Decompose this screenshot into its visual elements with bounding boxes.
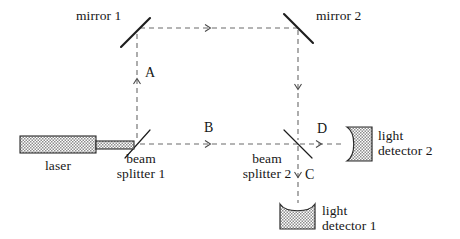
diagram-canvas <box>0 0 460 239</box>
beam-path-d <box>300 141 345 148</box>
beam-splitter-1-label-line1: beam <box>93 151 189 166</box>
light-detector-2-label: light detector 2 <box>378 128 433 158</box>
light-detector-2-label-line1: light <box>378 128 433 143</box>
laser-label: laser <box>23 159 93 173</box>
beam-label-a: A <box>145 66 155 80</box>
beam-path-b <box>140 141 298 148</box>
light-detector-1-label: light detector 1 <box>322 203 377 233</box>
mirror-1-surface <box>121 18 150 47</box>
light-detector-1-label-line1: light <box>322 203 377 218</box>
light-detector-1-body <box>280 204 315 229</box>
light-detector-1-label-line2: detector 1 <box>322 218 377 233</box>
beam-label-c: C <box>305 168 314 182</box>
beam-path-a <box>134 34 141 138</box>
mirror-2-label: mirror 2 <box>316 9 361 23</box>
beam-path-right <box>295 30 302 140</box>
beam-label-d: D <box>317 122 327 136</box>
beam-path-top <box>140 25 300 32</box>
beam-label-b: B <box>204 121 213 135</box>
beam-splitter-2-label: beam splitter 2 <box>219 151 315 181</box>
beam-splitter-2-label-line1: beam <box>219 151 315 166</box>
mirror-1-label: mirror 1 <box>76 9 121 23</box>
beam-splitter-1-label-line2: splitter 1 <box>93 166 189 181</box>
beam-splitter-1-label: beam splitter 1 <box>93 151 189 181</box>
light-detector-2-body <box>347 127 372 161</box>
light-detector-2-label-line2: detector 2 <box>378 143 433 158</box>
beam-splitter-2-label-line2: splitter 2 <box>219 166 315 181</box>
interferometer-figure: mirror 1 mirror 2 beam splitter 1 beam s… <box>0 0 460 239</box>
